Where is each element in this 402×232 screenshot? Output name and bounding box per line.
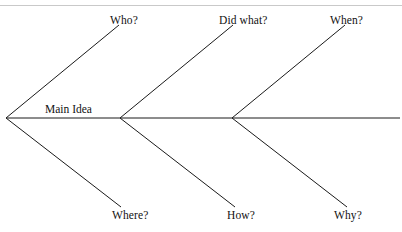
branch-line-how	[120, 118, 235, 207]
branch-label-did-what: Did what?	[219, 14, 267, 27]
branch-label-how: How?	[227, 209, 255, 222]
branch-line-did-what	[120, 25, 233, 118]
branch-line-when	[232, 25, 345, 118]
branch-line-where	[6, 118, 121, 207]
branch-label-who: Who?	[110, 14, 138, 27]
main-idea-label: Main Idea	[45, 103, 92, 115]
branch-label-when: When?	[330, 14, 363, 27]
branch-label-where: Where?	[112, 209, 148, 222]
fishbone-diagram-canvas	[0, 0, 402, 232]
branch-line-why	[232, 118, 347, 207]
fishbone-diagram-page: Who? Did what? When? Where? How? Why? Ma…	[0, 0, 402, 232]
branch-label-why: Why?	[334, 209, 362, 222]
